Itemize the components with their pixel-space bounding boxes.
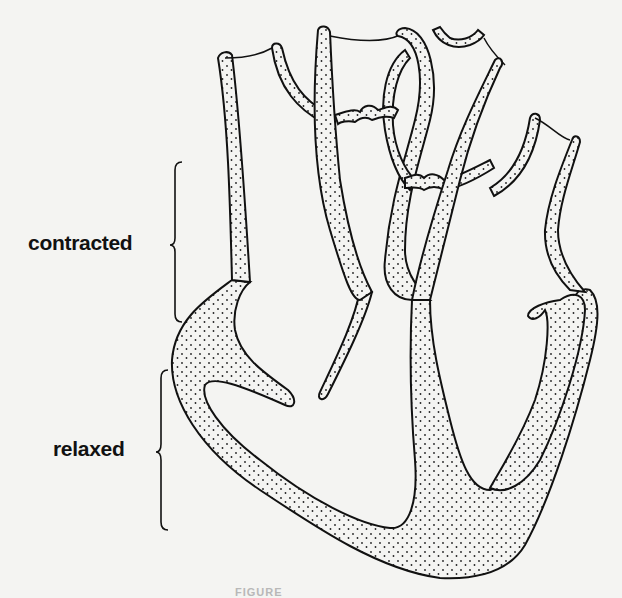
vessel-left [218, 52, 250, 282]
label-relaxed: relaxed [53, 437, 124, 461]
vessel-top-right-hook [433, 27, 484, 47]
vessel-far-right-branch [490, 114, 540, 196]
papillary-strand [319, 290, 372, 399]
vessel-central-rim [330, 35, 400, 40]
vessel-far-right [545, 136, 585, 292]
vessel-far-right-rim [535, 118, 570, 140]
label-contracted: contracted [28, 231, 132, 255]
vessel-central [314, 26, 372, 300]
bracket-contracted [170, 162, 182, 322]
bracket-relaxed [156, 370, 168, 530]
figure-caption: FIGURE [235, 586, 283, 598]
